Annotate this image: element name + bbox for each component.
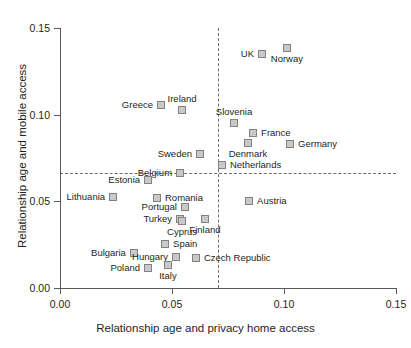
data-point-marker[interactable] [109,193,117,201]
data-point-label: Denmark [229,149,268,159]
data-point-marker[interactable] [144,176,152,184]
data-point-label: Czech Republic [204,253,271,263]
x-tick-label: 0.10 [254,299,314,310]
data-point-label: Greece [122,100,153,110]
x-tick-label: 0.15 [366,299,411,310]
data-point-label: Netherlands [230,160,281,170]
data-point-marker[interactable] [181,203,189,211]
data-point-label: Cyprus [167,227,197,237]
data-point-label: Belgium [138,168,172,178]
data-point-marker[interactable] [218,161,226,169]
data-point-marker[interactable] [201,215,209,223]
y-tick-label: 0.00 [4,283,50,294]
x-tick-mark [284,288,285,294]
data-point-marker[interactable] [144,264,152,272]
data-point-label: Sweden [158,149,192,159]
data-point-label: Germany [298,139,337,149]
x-tick-label: 0.00 [30,299,90,310]
data-point-marker[interactable] [196,150,204,158]
y-tick-label: 0.05 [4,196,50,207]
data-point-marker[interactable] [176,169,184,177]
y-axis-title: Relationship age and mobile access [16,38,28,274]
data-point-label: Norway [271,54,303,64]
data-point-marker[interactable] [245,197,253,205]
data-point-label: France [261,128,291,138]
data-point-marker[interactable] [178,106,186,114]
data-point-label: Turkey [143,214,172,224]
data-point-label: Lithuania [67,192,106,202]
data-point-marker[interactable] [249,129,257,137]
x-tick-mark [172,288,173,294]
y-tick-mark [54,28,60,29]
data-point-marker[interactable] [286,140,294,148]
data-point-label: Hungary [132,252,168,262]
data-point-label: Italy [159,271,176,281]
x-tick-label: 0.05 [142,299,202,310]
data-point-label: Bulgaria [91,248,126,258]
data-point-marker[interactable] [157,101,165,109]
data-point-marker[interactable] [178,217,186,225]
y-tick-mark [54,201,60,202]
data-point-label: Austria [257,196,287,206]
data-point-label: Ireland [168,94,197,104]
data-point-label: Spain [173,239,197,249]
data-point-label: UK [241,49,254,59]
y-tick-label: 0.15 [4,23,50,34]
data-point-label: Poland [110,263,140,273]
scatter-chart: UKNorwayGreeceIrelandSloveniaFranceGerma… [0,0,411,348]
data-point-marker[interactable] [172,253,180,261]
data-point-marker[interactable] [230,119,238,127]
data-point-label: Portugal [142,202,177,212]
plot-area: UKNorwayGreeceIrelandSloveniaFranceGerma… [60,28,396,288]
data-point-marker[interactable] [192,254,200,262]
data-point-marker[interactable] [244,139,252,147]
y-tick-mark [54,115,60,116]
data-point-marker[interactable] [258,50,266,58]
y-tick-label: 0.10 [4,110,50,121]
data-point-marker[interactable] [283,44,291,52]
x-axis-title: Relationship age and privacy home access [0,322,411,334]
x-axis-line [60,288,397,289]
x-tick-mark [60,288,61,294]
data-point-label: Slovenia [216,107,252,117]
data-point-marker[interactable] [161,240,169,248]
vertical-reference-line [218,28,219,288]
data-point-marker[interactable] [164,261,172,269]
x-tick-mark [396,288,397,294]
data-point-label: Estonia [108,175,140,185]
